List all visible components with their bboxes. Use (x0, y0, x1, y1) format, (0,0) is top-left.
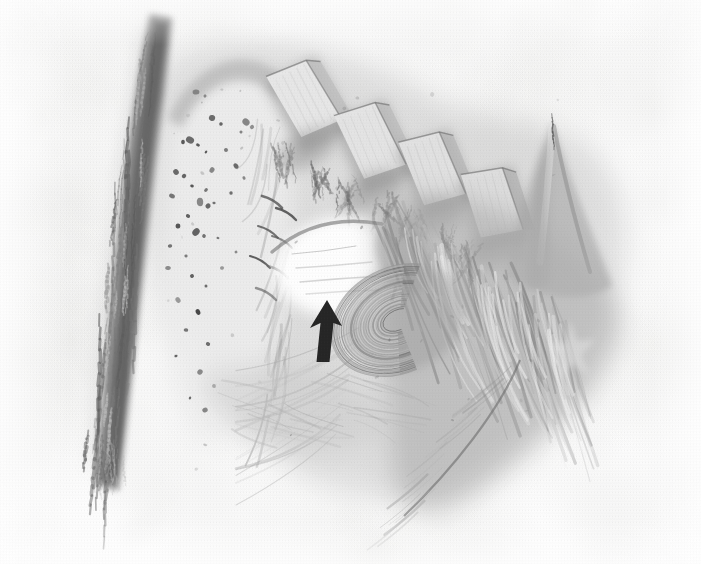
illustration-canvas (0, 0, 701, 564)
anatomical-figure: Monochrome pen-and-wash anatomical drawi… (0, 0, 701, 564)
